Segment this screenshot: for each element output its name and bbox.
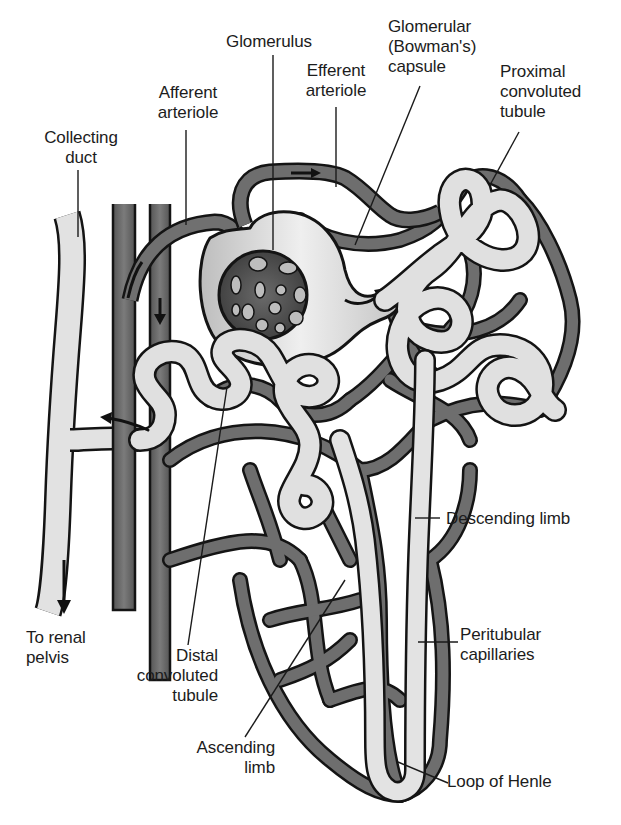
label-proximal-convoluted-tubule: Proximal convoluted tubule (500, 62, 620, 122)
label-peritubular-capillaries: Peritubular capillaries (460, 625, 580, 665)
label-descending-limb: Descending limb (446, 509, 616, 529)
glomerulus (219, 251, 307, 339)
label-glomerulus: Glomerulus (214, 32, 324, 52)
label-loop-of-henle: Loop of Henle (447, 772, 587, 792)
label-collecting-duct: Collecting duct (27, 128, 135, 168)
nephron-diagram (0, 0, 621, 825)
label-ascending-limb: Ascending limb (165, 738, 275, 778)
label-afferent-arteriole: Afferent arteriole (140, 83, 236, 123)
label-efferent-arteriole: Efferent arteriole (296, 61, 376, 101)
label-distal-convoluted-tubule: Distal convoluted tubule (110, 646, 218, 706)
label-bowmans-capsule: Glomerular (Bowman's) capsule (388, 17, 500, 77)
